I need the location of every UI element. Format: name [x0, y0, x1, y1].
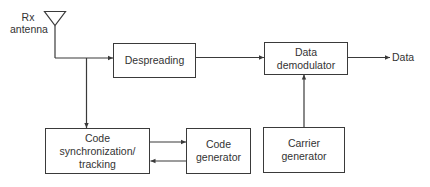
code-sync-label: Code synchronization/ tracking — [60, 132, 136, 171]
carrier-generator-label: Carrier generator — [282, 137, 327, 163]
antenna-label: Rx antenna — [10, 11, 46, 35]
receiver-block-diagram: Rx antenna Despreading Data demodulator … — [0, 0, 430, 187]
carrier-generator-block: Carrier generator — [263, 127, 345, 173]
code-sync-block: Code synchronization/ tracking — [45, 128, 150, 174]
data-demodulator-label: Data demodulator — [277, 46, 335, 72]
data-demodulator-block: Data demodulator — [264, 42, 348, 75]
code-generator-label: Code generator — [196, 138, 241, 164]
despreading-label: Despreading — [125, 54, 185, 67]
despreading-block: Despreading — [113, 43, 196, 78]
code-generator-block: Code generator — [186, 128, 251, 174]
data-output-label: Data — [392, 51, 414, 63]
